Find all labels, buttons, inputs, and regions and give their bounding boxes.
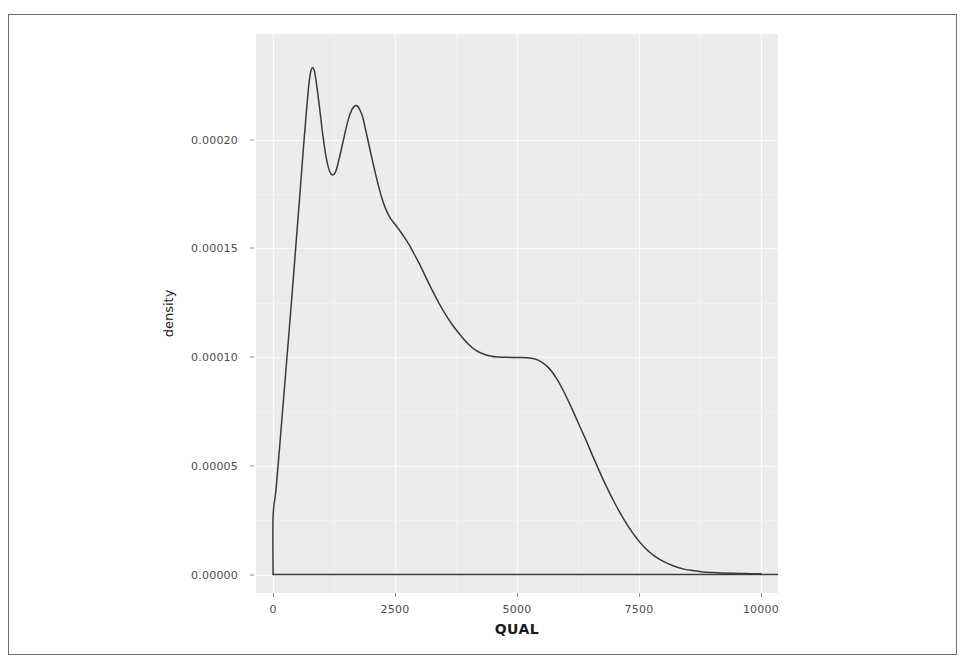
x-tick-label: 7500 bbox=[625, 603, 654, 616]
y-tick-label: 0.00000 bbox=[191, 568, 238, 581]
y-tick-mark bbox=[250, 139, 254, 140]
density-line bbox=[273, 68, 761, 575]
x-tick-mark bbox=[517, 593, 518, 597]
x-tick-mark bbox=[639, 593, 640, 597]
x-axis-ticks: 025005000750010000 bbox=[256, 599, 778, 619]
y-tick-mark bbox=[250, 574, 254, 575]
x-tick-mark bbox=[273, 593, 274, 597]
x-tick-label: 0 bbox=[269, 603, 276, 616]
x-tick-label: 2500 bbox=[381, 603, 410, 616]
y-tick-label: 0.00020 bbox=[191, 133, 238, 146]
x-tick-label: 5000 bbox=[503, 603, 532, 616]
density-curve bbox=[256, 34, 778, 593]
y-tick-label: 0.00005 bbox=[191, 459, 238, 472]
y-axis-ticks: 0.000000.000050.000100.000150.00020 bbox=[184, 34, 248, 593]
y-axis-title: density bbox=[159, 34, 179, 593]
y-tick-label: 0.00010 bbox=[191, 351, 238, 364]
x-tick-mark bbox=[395, 593, 396, 597]
x-tick-mark bbox=[761, 593, 762, 597]
y-tick-label: 0.00015 bbox=[191, 242, 238, 255]
screenshot-page: 0.000000.000050.000100.000150.00020 0250… bbox=[0, 0, 967, 668]
x-tick-label: 10000 bbox=[743, 603, 779, 616]
y-tick-mark bbox=[250, 248, 254, 249]
figure-frame: 0.000000.000050.000100.000150.00020 0250… bbox=[8, 14, 957, 655]
y-tick-mark bbox=[250, 465, 254, 466]
x-axis-title: QUAL bbox=[256, 621, 778, 637]
plot-panel bbox=[256, 34, 778, 593]
density-chart: 0.000000.000050.000100.000150.00020 0250… bbox=[9, 15, 958, 656]
y-tick-mark bbox=[250, 357, 254, 358]
